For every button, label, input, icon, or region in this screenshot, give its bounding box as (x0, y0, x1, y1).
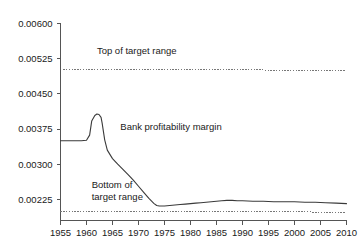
x-tick-label: 1970 (128, 227, 149, 238)
annotation-top-of-target-range: Top of target range (97, 45, 177, 56)
x-tick-label: 1965 (102, 227, 123, 238)
x-tick-label: 1960 (76, 227, 97, 238)
chart-figure: 0.002250.003000.003750.004500.005250.006… (0, 0, 358, 251)
x-tick-label: 2010 (336, 227, 357, 238)
annotation-text: Top of target range (97, 45, 177, 56)
x-tick-label: 2005 (310, 227, 331, 238)
y-tick-label: 0.00525 (18, 53, 52, 64)
x-tick-label: 1990 (232, 227, 253, 238)
annotation-layer: Top of target rangeBank profitability ma… (92, 45, 222, 203)
annotation-text: Bank profitability margin (120, 121, 221, 132)
y-tick-label: 0.00600 (18, 18, 52, 29)
x-tick-label: 1975 (154, 227, 175, 238)
x-tick-label: 1995 (258, 227, 279, 238)
x-axis: 1955196019651970197519801985199019952000… (50, 221, 357, 238)
x-tick-label: 1985 (206, 227, 227, 238)
x-axis-tick-labels: 1955196019651970197519801985199019952000… (50, 227, 357, 238)
annotation-text: target range (92, 191, 143, 202)
x-tick-label: 2000 (284, 227, 305, 238)
x-tick-label: 1955 (50, 227, 71, 238)
x-axis-ticks (61, 221, 347, 225)
x-tick-label: 1980 (180, 227, 201, 238)
y-tick-label: 0.00450 (18, 88, 52, 99)
y-axis-ticks (57, 24, 61, 200)
series-top-of-target-range (61, 69, 347, 70)
y-axis-tick-labels: 0.002250.003000.003750.004500.005250.006… (18, 18, 52, 205)
y-axis: 0.002250.003000.003750.004500.005250.006… (18, 18, 60, 221)
annotation-bank-profitability-margin: Bank profitability margin (120, 121, 221, 132)
annotation-text: Bottom of (92, 179, 133, 190)
y-tick-label: 0.00225 (18, 194, 52, 205)
y-tick-label: 0.00375 (18, 123, 52, 134)
line-chart: 0.002250.003000.003750.004500.005250.006… (0, 0, 358, 251)
y-tick-label: 0.00300 (18, 159, 52, 170)
